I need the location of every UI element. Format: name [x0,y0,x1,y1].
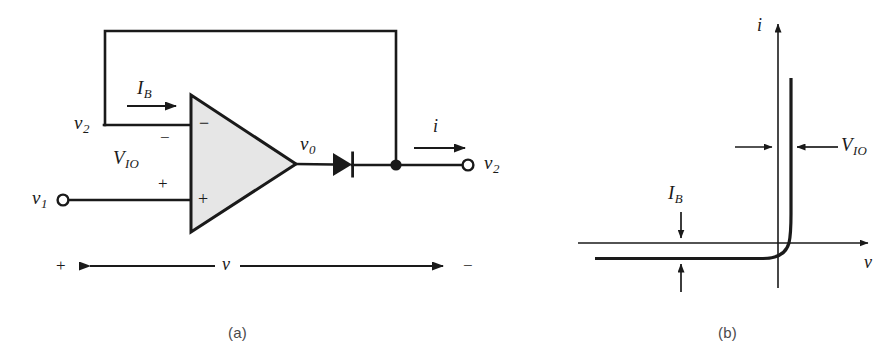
chart-ib-annotation: IB [668,183,683,206]
v1-terminal-node [58,195,69,206]
label-v1-input: v1 [32,188,47,211]
chart-vio-annotation: VIO [841,135,867,158]
figure-container: v2 v1 IB VIO − + − + v0 i v2 + v − i v V… [0,0,891,359]
figure-vector-graphics [0,0,891,359]
diode-symbol [333,152,353,178]
iv-characteristic-chart [578,24,868,292]
vio-polarity-minus: − [160,129,170,146]
v-across-polarity-plus: + [56,257,66,274]
opamp-noninverting-terminal-sign: + [198,190,208,208]
chart-i-axis-label: i [757,16,762,34]
label-v-across: v [222,255,230,273]
chart-v-axis-label: v [864,253,872,271]
label-v2-output: v2 [484,153,499,176]
opamp-inverting-terminal-sign: − [199,114,209,132]
iv-curve [595,78,791,259]
v2-output-terminal-node [463,160,474,171]
caption-panel-a: (a) [228,324,247,341]
label-i-current: i [433,117,438,135]
label-ib-current: IB [137,78,152,101]
v-across-polarity-minus: − [463,257,473,274]
label-v0-output: v0 [300,134,315,157]
caption-panel-b: (b) [718,324,737,341]
label-vio-offset-voltage: VIO [113,148,139,171]
output-junction-node [390,159,401,170]
vio-polarity-plus: + [158,175,168,192]
label-v2-input: v2 [74,113,89,136]
opamp-output-lead [296,164,333,165]
